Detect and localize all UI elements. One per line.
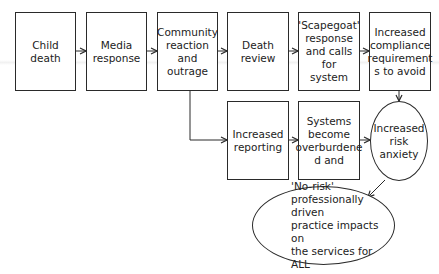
flowchart-diagram: Child death Media response Community rea… <box>0 0 439 274</box>
node-no-risk-practice: 'No-risk' professionally driven practice… <box>252 186 395 265</box>
node-increased-compliance: Increased compliance requirement s to av… <box>369 12 431 91</box>
node-media-response: Media response <box>86 12 147 91</box>
node-label: Systems become overburdene d and <box>295 115 362 167</box>
node-child-death: Child death <box>15 12 76 91</box>
node-increased-reporting: Increased reporting <box>227 101 289 180</box>
node-community-reaction: Community reaction and outrage <box>157 12 218 91</box>
node-scapegoat-response: 'Scapegoat' response and calls for syste… <box>298 12 360 91</box>
node-label: Increased reporting <box>232 128 283 154</box>
node-label: Media response <box>93 39 141 65</box>
arrow-community-to-reporting <box>190 90 227 140</box>
node-label: Community reaction and outrage <box>157 26 218 78</box>
node-systems-overburdened: Systems become overburdene d and <box>298 101 360 180</box>
node-label: 'No-risk' professionally driven practice… <box>291 180 394 271</box>
node-death-review: Death review <box>227 12 289 91</box>
node-label: Increased compliance requirement s to av… <box>368 26 433 78</box>
node-label: Increased risk anxiety <box>371 122 427 161</box>
node-label: Child death <box>30 39 60 65</box>
node-increased-risk-anxiety: Increased risk anxiety <box>370 101 428 181</box>
node-label: 'Scapegoat' response and calls for syste… <box>298 19 359 84</box>
node-label: Death review <box>241 39 276 65</box>
